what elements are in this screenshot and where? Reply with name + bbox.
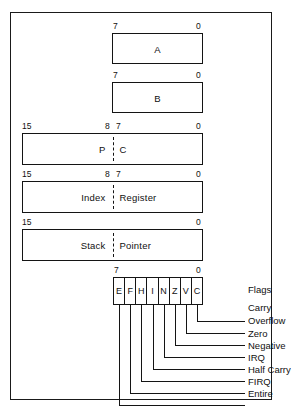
register-label-pc-high: P	[23, 144, 113, 155]
register-program-counter: P C	[22, 133, 203, 165]
flag-bit-c: C	[192, 278, 202, 304]
bit-label-stack-0: 0	[196, 218, 201, 227]
register-label-index-high: Index	[23, 192, 113, 203]
register-label-pc: P C	[23, 144, 202, 155]
bit-label-index-15: 15	[22, 170, 31, 179]
bit-label-a-lsb: 0	[196, 22, 201, 31]
register-label-index: Index Register	[23, 192, 202, 203]
bit-label-b-lsb: 0	[196, 71, 201, 80]
flag-bit-f: F	[125, 278, 136, 304]
register-accumulator-b: B	[112, 82, 203, 113]
callout-zero: Zero	[248, 329, 268, 339]
leader-line-irq-vertical	[153, 305, 154, 369]
leader-line-half-carry-vertical	[141, 305, 142, 381]
callout-entire: Entire	[248, 389, 273, 399]
register-label-stack-high: Stack	[23, 240, 113, 251]
register-condition-code: E F H I N Z V C	[113, 277, 203, 305]
flag-bit-i: I	[147, 278, 158, 304]
leader-line-entire-vertical	[119, 305, 120, 405]
register-stack-pointer: Stack Pointer	[22, 229, 203, 261]
leader-line-negative-vertical	[164, 305, 165, 357]
callout-negative: Negative	[248, 341, 286, 351]
leader-line-zero-horizontal	[175, 345, 245, 346]
bit-label-b-msb: 7	[113, 71, 118, 80]
register-label-index-low: Register	[113, 192, 203, 203]
callout-flags: Flags	[248, 285, 271, 295]
register-label-a: A	[113, 43, 202, 54]
flag-bit-h: H	[136, 278, 147, 304]
flag-bit-z: Z	[170, 278, 181, 304]
leader-line-zero-vertical	[175, 305, 176, 345]
flag-bit-e: E	[114, 278, 125, 304]
callout-overflow: Overflow	[248, 316, 285, 326]
leader-line-firq-vertical	[130, 305, 131, 393]
leader-line-carry-horizontal	[197, 321, 245, 322]
bit-label-index-7: 7	[116, 170, 121, 179]
flag-bit-v: V	[181, 278, 192, 304]
bit-label-ccr-lsb: 0	[196, 266, 201, 275]
leader-line-overflow-vertical	[186, 305, 187, 333]
register-label-pc-low: C	[113, 144, 203, 155]
flag-bit-n: N	[159, 278, 170, 304]
leader-line-firq-horizontal	[130, 393, 245, 394]
register-accumulator-a: A	[112, 33, 203, 64]
callout-half-carry: Half Carry	[248, 365, 291, 375]
register-label-stack: Stack Pointer	[23, 240, 202, 251]
bit-label-pc-15: 15	[22, 122, 31, 131]
leader-line-irq-horizontal	[153, 369, 245, 370]
leader-line-half-carry-horizontal	[141, 381, 245, 382]
callout-firq: FIRQ	[248, 377, 271, 387]
bit-label-ccr-msb: 7	[114, 266, 119, 275]
bit-label-a-msb: 7	[113, 22, 118, 31]
bit-label-pc-7: 7	[116, 122, 121, 131]
bit-label-pc-8: 8	[105, 122, 110, 131]
leader-line-overflow-horizontal	[186, 333, 245, 334]
callout-irq: IRQ	[248, 353, 265, 363]
bit-label-pc-0: 0	[196, 122, 201, 131]
bit-label-stack-15: 15	[22, 218, 31, 227]
leader-line-negative-horizontal	[164, 357, 245, 358]
register-index: Index Register	[22, 181, 203, 213]
leader-line-entire-horizontal	[119, 405, 245, 406]
callout-carry: Carry	[248, 303, 271, 313]
register-label-b: B	[113, 92, 202, 103]
bit-label-index-8: 8	[105, 170, 110, 179]
bit-label-index-0: 0	[196, 170, 201, 179]
register-diagram: 7 0 A 7 0 B 15 8 7 0 P C 15 8 7 0 Index …	[0, 0, 291, 411]
leader-line-carry-vertical	[197, 305, 198, 321]
register-label-stack-low: Pointer	[113, 240, 203, 251]
